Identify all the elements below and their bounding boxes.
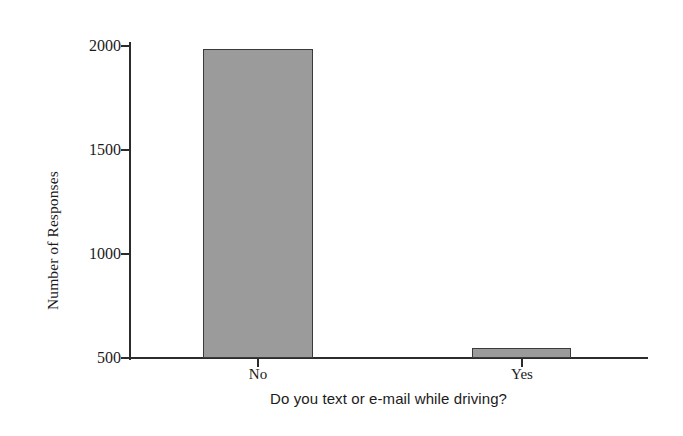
- y-tick-label-1000: 1000: [59, 245, 121, 263]
- y-tick-1000: 1000: [46, 245, 121, 264]
- y-tick-label-500: 500: [59, 349, 121, 367]
- y-tick-label-1500: 1500: [59, 141, 121, 159]
- x-tick-label-no: No: [213, 366, 303, 383]
- x-tick-label-yes: Yes: [477, 366, 567, 383]
- bar-chart: Number of Responses 2000 1500 1000 500 N…: [0, 0, 683, 436]
- y-axis-line: [129, 42, 131, 360]
- x-axis-title: Do you text or e-mail while driving?: [129, 390, 648, 407]
- bar-no: [203, 49, 313, 358]
- y-tick-label-2000: 2000: [59, 37, 121, 55]
- y-tick-1500: 1500: [46, 141, 121, 160]
- y-tick-500: 500: [46, 349, 121, 368]
- bar-yes: [472, 348, 571, 358]
- y-tick-2000: 2000: [46, 37, 121, 56]
